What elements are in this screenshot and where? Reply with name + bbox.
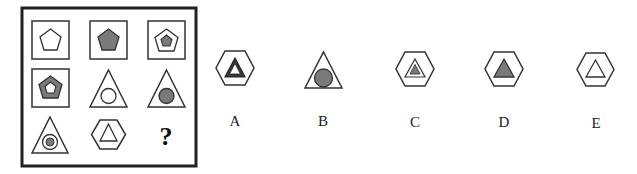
option-d[interactable]: D — [485, 52, 523, 130]
option-label: C — [410, 114, 420, 130]
puzzle-canvas: ? A B C D E — [0, 0, 637, 174]
question-mark: ? — [160, 122, 173, 151]
grid-cell-2-1 — [32, 69, 69, 107]
circle-icon — [101, 89, 116, 104]
option-label: B — [318, 113, 328, 129]
option-c[interactable]: C — [396, 52, 434, 130]
circle-icon — [46, 138, 54, 146]
grid-cell-1-2 — [90, 21, 127, 59]
option-b[interactable]: B — [305, 52, 342, 129]
grid-cell-1-3 — [148, 21, 185, 59]
circle-icon — [159, 89, 174, 104]
grid-cell-1-1 — [32, 21, 69, 59]
option-label: A — [230, 113, 241, 129]
grid-cell-3-3: ? — [160, 122, 173, 151]
option-a[interactable]: A — [216, 51, 254, 129]
grid-cell-3-2 — [92, 120, 126, 149]
circle-icon — [315, 69, 333, 87]
option-label: E — [591, 115, 600, 131]
option-label: D — [499, 114, 510, 130]
option-e[interactable]: E — [577, 53, 614, 131]
